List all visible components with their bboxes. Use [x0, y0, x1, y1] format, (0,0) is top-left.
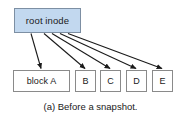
node-block-c-label: C: [107, 77, 114, 86]
node-block-c: C: [100, 70, 121, 92]
node-root-inode-label: root inode: [26, 16, 69, 26]
node-root-inode: root inode: [14, 8, 81, 33]
snapshot-diagram: root inode block A B C D E (a) Before a …: [0, 0, 181, 122]
node-block-e: E: [152, 70, 173, 92]
arrow-root-to-b: [44, 34, 85, 69]
node-block-a: block A: [13, 70, 70, 92]
arrow-root-to-d: [60, 34, 136, 69]
arrow-root-to-e: [68, 34, 162, 69]
node-block-d: D: [126, 70, 147, 92]
arrow-root-to-block-a: [31, 34, 41, 69]
figure-caption: (a) Before a snapshot.: [0, 101, 181, 112]
node-block-b-label: B: [82, 77, 88, 86]
node-block-a-label: block A: [27, 77, 57, 86]
node-block-b: B: [75, 70, 96, 92]
node-block-d-label: D: [133, 77, 140, 86]
node-block-e-label: E: [159, 77, 165, 86]
